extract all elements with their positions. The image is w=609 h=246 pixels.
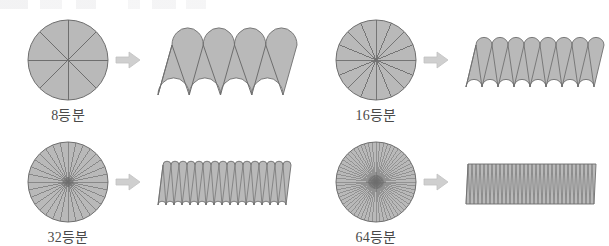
circle-container-64: [332, 138, 420, 226]
divided-circle-64: [332, 138, 420, 226]
scan-artifact-strip: [0, 0, 597, 9]
wedge-group: [466, 37, 604, 87]
arrow-shape: [116, 174, 140, 190]
right-arrow-icon: [423, 173, 449, 191]
caption-8: 8등분: [0, 104, 143, 124]
rearranged-strip-64: [456, 153, 606, 215]
arrow-shape: [424, 174, 448, 190]
right-arrow-icon: [115, 51, 141, 69]
transform-arrow-64: [423, 173, 449, 191]
circle-center-hub: [368, 175, 384, 189]
circle-container-8: [24, 16, 112, 104]
caption-16: 16등분: [301, 104, 451, 124]
divided-circle-32: [24, 138, 112, 226]
rearranged-strip-32: [148, 153, 301, 217]
arrow-shape: [424, 52, 448, 68]
divided-circle-16: [332, 16, 420, 104]
caption-64: 64등분: [301, 226, 451, 246]
transform-arrow-16: [423, 51, 449, 69]
result-container-8: [148, 26, 307, 114]
result-container-16: [456, 31, 609, 101]
arrow-shape: [116, 52, 140, 68]
result-container-64: [456, 153, 606, 215]
transform-arrow-8: [115, 51, 141, 69]
strip-outline: [466, 37, 604, 87]
rearranged-strip-8: [148, 26, 307, 114]
strip-outline: [158, 28, 297, 95]
rearranged-strip-16: [456, 31, 609, 101]
transform-arrow-32: [115, 173, 141, 191]
circle-container-32: [24, 138, 112, 226]
radial-division-lines: [336, 20, 416, 100]
right-arrow-icon: [115, 173, 141, 191]
wedge-group: [158, 28, 297, 95]
circle-container-16: [332, 16, 420, 104]
circle-center-hub: [62, 177, 74, 187]
caption-32: 32등분: [0, 226, 143, 246]
result-container-32: [148, 153, 301, 217]
divided-circle-8: [24, 16, 112, 104]
radial-division-lines: [28, 20, 108, 100]
right-arrow-icon: [423, 51, 449, 69]
